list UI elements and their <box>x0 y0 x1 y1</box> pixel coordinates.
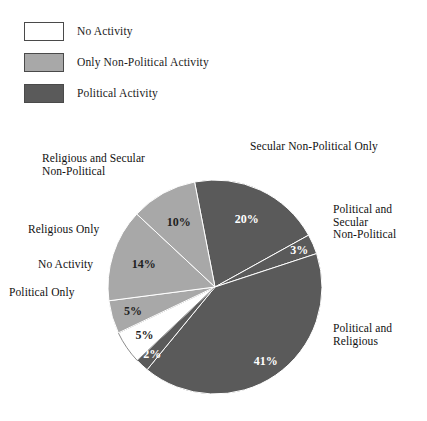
pie-percent-label: 5% <box>124 304 142 318</box>
callout-political-and-secular-non-political: Political and Secular Non-Political <box>333 203 396 241</box>
pie-percent-label: 3% <box>290 243 308 257</box>
pie-percent-label: 5% <box>135 328 153 342</box>
pie-percent-label: 2% <box>143 347 161 361</box>
callout-secular-non-political-only: Secular Non-Political Only <box>250 140 378 153</box>
pie-percent-label: 20% <box>235 212 259 226</box>
pie-percent-label: 14% <box>132 257 156 271</box>
callout-religious-only: Religious Only <box>28 223 99 236</box>
pie-percent-label: 10% <box>167 215 191 229</box>
pie-percent-label: 41% <box>254 354 278 368</box>
pie-chart-figure: No Activity Only Non-Political Activity … <box>0 0 427 421</box>
pie-slices <box>108 180 322 394</box>
callout-no-activity: No Activity <box>38 258 93 271</box>
callout-religious-and-secular-non-political: Religious and Secular Non-Political <box>42 152 145 177</box>
callout-political-only: Political Only <box>9 286 75 299</box>
callout-political-and-religious: Political and Religious <box>333 322 392 347</box>
